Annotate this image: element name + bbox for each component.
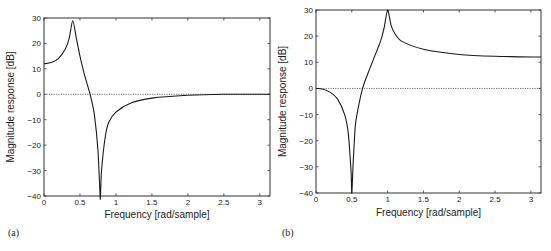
x-tick-label: 1 [114, 198, 119, 207]
x-tick-label: 2 [186, 198, 191, 207]
x-tick-label: 1.5 [146, 198, 158, 207]
x-tick-label: 2.5 [218, 198, 230, 207]
x-tick-label: 0.5 [74, 198, 86, 207]
x-tick-label: 1 [385, 195, 390, 204]
y-axis-label: Magnitude response [dB] [277, 46, 288, 157]
y-tick-label: 30 [304, 6, 313, 15]
chart-panel-a: 00.511.522.533020100−10−20−30−40Frequenc… [5, 14, 270, 239]
y-tick-label: −40 [299, 189, 313, 198]
y-axis-label: Magnitude response [dB] [5, 51, 16, 162]
panel-label: (b) [282, 227, 294, 239]
y-tick-label: 20 [304, 32, 313, 41]
x-tick-label: 1.5 [418, 195, 430, 204]
figure: 00.511.522.533020100−10−20−30−40Frequenc… [0, 0, 551, 251]
magnitude-curve [44, 21, 270, 200]
y-tick-label: −10 [299, 111, 313, 120]
y-tick-label: 20 [32, 39, 41, 48]
plot-frame [316, 10, 541, 193]
x-axis-label: Frequency [rad/sample] [104, 209, 209, 220]
y-tick-label: −20 [27, 141, 41, 150]
y-tick-label: −10 [27, 116, 41, 125]
y-tick-label: 0 [309, 84, 314, 93]
y-tick-label: 10 [304, 58, 313, 67]
x-tick-label: 3 [258, 198, 263, 207]
y-tick-label: −30 [299, 163, 313, 172]
y-tick-label: 0 [37, 90, 42, 99]
panel-label: (a) [8, 227, 19, 239]
y-tick-label: −40 [27, 192, 41, 201]
x-axis-label: Frequency [rad/sample] [376, 207, 481, 218]
x-tick-label: 0 [42, 198, 47, 207]
x-tick-label: 2.5 [489, 195, 501, 204]
x-tick-label: 3 [529, 195, 534, 204]
y-tick-label: −20 [299, 137, 313, 146]
x-tick-label: 0.5 [346, 195, 358, 204]
x-tick-label: 0 [314, 195, 319, 204]
magnitude-curve [316, 10, 541, 193]
y-tick-label: 10 [32, 65, 41, 74]
chart-panel-b: 00.511.522.533020100−10−20−30−40Frequenc… [277, 6, 541, 239]
y-tick-label: 30 [32, 14, 41, 23]
y-tick-label: −30 [27, 167, 41, 176]
x-tick-label: 2 [457, 195, 462, 204]
